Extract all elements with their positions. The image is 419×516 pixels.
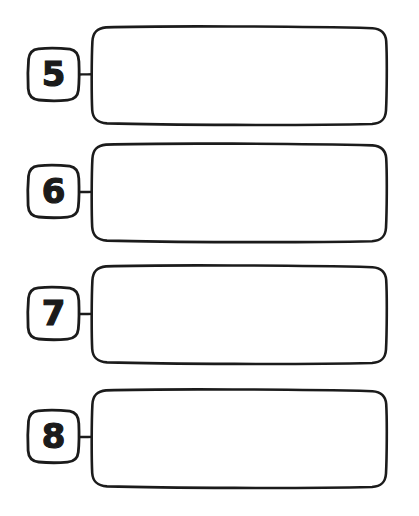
answer-box-5[interactable]: [92, 26, 387, 125]
answer-box-8[interactable]: [92, 389, 387, 488]
numeral-label-8: 8: [42, 416, 66, 456]
numeral-label-6: 6: [42, 171, 66, 211]
worksheet-canvas: 5 6 7 8: [0, 0, 419, 516]
numeral-label-5: 5: [42, 54, 66, 94]
numeral-label-7: 7: [42, 293, 66, 333]
worksheet-drawing: 5 6 7 8: [0, 0, 419, 516]
answer-box-7[interactable]: [92, 265, 387, 364]
answer-box-6[interactable]: [92, 144, 387, 243]
